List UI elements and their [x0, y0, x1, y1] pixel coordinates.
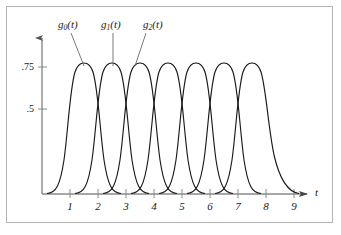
curve-g1	[75, 63, 149, 194]
x-tick-label-3: 3	[116, 201, 136, 212]
curve-g3	[131, 63, 205, 194]
x-tick-label-9: 9	[284, 201, 304, 212]
y-tick-label-075: .75	[12, 62, 34, 72]
curve-g6	[215, 63, 299, 194]
x-tick-label-1: 1	[60, 201, 80, 212]
x-tick-label-8: 8	[256, 201, 276, 212]
y-tick-label-05: .5	[12, 104, 34, 114]
plot-canvas	[0, 0, 341, 235]
x-tick-label-6: 6	[200, 201, 220, 212]
curve-label-g2-arg: (t)	[152, 18, 162, 30]
leader-line-g2	[135, 33, 146, 66]
leader-line-g0	[71, 33, 84, 66]
x-tick-label-2: 2	[88, 201, 108, 212]
leader-lines	[71, 33, 146, 66]
curve-label-g2: g2(t)	[143, 19, 163, 30]
x-tick-label-5: 5	[172, 201, 192, 212]
curve-g4	[159, 63, 233, 194]
curve-label-g1-base: g	[101, 18, 107, 30]
curve-label-g2-sub: 2	[149, 23, 153, 32]
curve-label-g0-arg: (t)	[67, 18, 77, 30]
curve-label-g0-base: g	[58, 18, 64, 30]
x-tick-label-7: 7	[228, 201, 248, 212]
x-tick-label-4: 4	[144, 201, 164, 212]
curve-label-g0: g0(t)	[58, 19, 78, 30]
curve-g5	[187, 63, 261, 194]
curve-group	[47, 63, 299, 194]
figure-container: g0(t) g1(t) g2(t) .75 .5 1 2 3 4 5 6 7 8…	[0, 0, 341, 235]
curve-label-g1-arg: (t)	[110, 18, 120, 30]
curve-label-g2-base: g	[143, 18, 149, 30]
curve-label-g1: g1(t)	[101, 19, 121, 30]
curve-label-g0-sub: 0	[64, 23, 68, 32]
curve-g2	[103, 63, 177, 194]
curve-label-g1-sub: 1	[107, 23, 111, 32]
x-axis-label: t	[315, 187, 318, 198]
curve-g0	[47, 63, 121, 194]
